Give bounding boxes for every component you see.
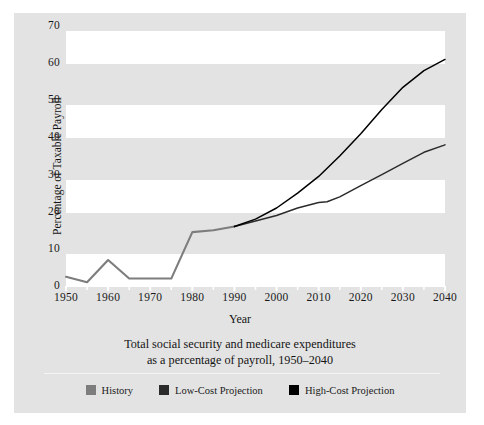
legend-item[interactable]: History — [86, 385, 134, 396]
series-line-history — [66, 227, 234, 283]
legend-label: High-Cost Projection — [305, 385, 395, 396]
x-tick-label: 1990 — [211, 291, 257, 303]
y-tick-label: 40 — [30, 130, 60, 142]
x-tick-label: 1980 — [169, 291, 215, 303]
caption-line-1: Total social security and medicare expen… — [14, 336, 466, 352]
x-tick-label: 2040 — [422, 291, 468, 303]
legend-divider — [44, 373, 440, 374]
chart-lines-svg — [66, 26, 445, 286]
x-tick-label: 1970 — [127, 291, 173, 303]
x-tick-label: 1960 — [85, 291, 131, 303]
legend-swatch-icon — [86, 385, 96, 395]
chart-caption: Total social security and medicare expen… — [14, 336, 466, 368]
caption-line-2: as a percentage of payroll, 1950–2040 — [14, 352, 466, 368]
y-tick-label: 70 — [30, 19, 60, 31]
y-axis-tick-labels: 010203040506070 — [26, 26, 60, 286]
x-tick-label: 1950 — [43, 291, 89, 303]
chart-figure: Percentage of Taxable Payroll 0102030405… — [0, 0, 484, 425]
legend-item[interactable]: Low-Cost Projection — [159, 385, 263, 396]
x-tick-label: 2030 — [380, 291, 426, 303]
legend-swatch-icon — [289, 385, 299, 395]
plot-area — [66, 26, 445, 286]
legend-item[interactable]: High-Cost Projection — [289, 385, 395, 396]
data-series-group — [66, 59, 445, 282]
y-tick-label: 60 — [30, 56, 60, 68]
y-tick-label: 20 — [30, 205, 60, 217]
series-line-high-cost-projection — [234, 59, 445, 226]
y-tick-label: 50 — [30, 93, 60, 105]
legend-swatch-icon — [159, 385, 169, 395]
x-tick-label: 2000 — [254, 291, 300, 303]
y-tick-label: 30 — [30, 168, 60, 180]
y-tick-label: 10 — [30, 242, 60, 254]
y-tick-label: 0 — [30, 279, 60, 291]
legend-label: History — [102, 385, 134, 396]
x-axis-tick-labels: 1950196019701980199020002010202020302040 — [66, 291, 445, 309]
x-tick-label: 2010 — [296, 291, 342, 303]
legend-label: Low-Cost Projection — [175, 385, 263, 396]
x-tick-label: 2020 — [338, 291, 384, 303]
chart-legend: HistoryLow-Cost ProjectionHigh-Cost Proj… — [14, 381, 466, 399]
x-axis-title: Year — [14, 312, 466, 327]
